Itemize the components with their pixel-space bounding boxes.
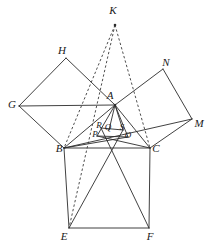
vertex-label-N: N [162,57,169,68]
vertex-label-S: S [120,123,125,132]
vertex-label-G: G [8,99,16,110]
vertex-label-C: C [152,143,159,154]
vertex-dot-A [114,104,117,107]
segment-AN [115,69,163,105]
segment-FC [149,148,150,228]
vertex-dot-K [114,24,117,27]
vertex-label-F: F [147,231,154,242]
segment-BE [64,148,69,228]
segment-FR [101,128,149,228]
vertex-label-K: K [109,5,116,16]
segment-GH [19,58,66,106]
vertex-label-P: P [92,130,98,139]
geometry-figure: KHNGAMRQSPOBCEF [0,0,220,250]
vertex-dot-group [114,24,117,107]
solid-line-group [19,58,192,228]
vertex-label-O: O [125,131,132,140]
vertex-label-Q: Q [105,123,112,132]
segment-NM [163,69,192,119]
vertex-label-B: B [56,143,63,154]
vertex-label-E: E [61,231,68,242]
segment-AG [19,105,115,106]
vertex-label-H: H [58,45,66,56]
vertex-label-A: A [107,90,114,101]
vertex-label-M: M [194,118,203,129]
